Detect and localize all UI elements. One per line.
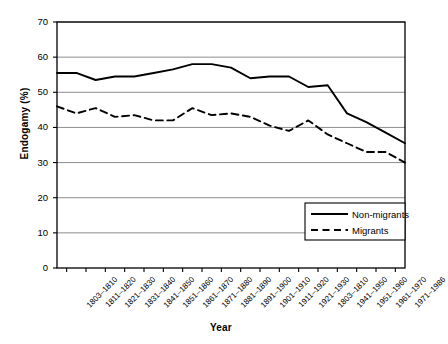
- gridlines: [57, 22, 405, 233]
- y-tick-label: 20: [18, 192, 48, 203]
- legend-label-non-migrants: Non-migrants: [352, 209, 409, 220]
- series-line-migrants: [57, 106, 405, 162]
- y-tick-label: 10: [18, 227, 48, 238]
- y-tick-label: 0: [18, 262, 48, 273]
- y-axis-title: Endogamy (%): [19, 69, 30, 179]
- series-line-non-migrants: [57, 64, 405, 143]
- legend-label-migrants: Migrants: [352, 225, 388, 236]
- y-tick-label: 70: [18, 16, 48, 27]
- x-axis-title: Year: [0, 322, 442, 333]
- y-tick-label: 60: [18, 51, 48, 62]
